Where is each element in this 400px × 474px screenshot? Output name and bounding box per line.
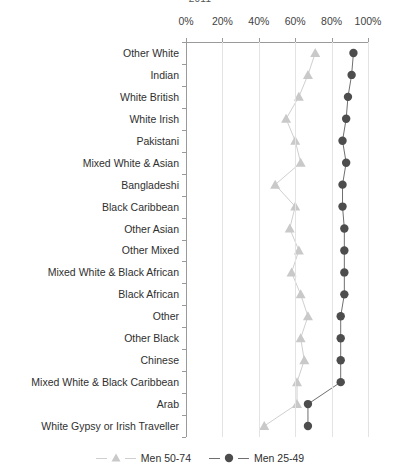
y-tick-mark [182, 86, 186, 87]
data-point [337, 378, 345, 386]
data-point [337, 356, 345, 364]
legend-line [209, 458, 220, 459]
gridline-60 [295, 42, 296, 437]
category-label: Indian [150, 69, 179, 81]
data-point [296, 333, 306, 342]
data-point [304, 400, 312, 408]
category-label: Black African [118, 288, 179, 300]
y-tick-mark [182, 327, 186, 328]
legend-label: Men 25-49 [252, 452, 304, 464]
legend-label: Men 50-74 [139, 452, 191, 464]
data-point [285, 224, 295, 233]
y-tick-mark [182, 283, 186, 284]
data-point [344, 93, 352, 101]
gridline-100 [368, 42, 369, 437]
x-tick-mark [295, 38, 296, 42]
y-tick-mark [182, 371, 186, 372]
x-tick-label-0: 0% [178, 15, 193, 27]
data-point [340, 224, 348, 232]
gridline-20 [222, 42, 223, 437]
data-point [296, 289, 306, 298]
x-tick-label-100: 100% [355, 15, 382, 27]
data-point [281, 114, 291, 123]
legend-triangle-icon [110, 452, 122, 464]
category-label: Mixed White & Black African [48, 266, 179, 278]
data-point [310, 48, 320, 57]
legend-item-men-25-49[interactable]: Men 25-49 [209, 452, 304, 464]
y-tick-mark [182, 64, 186, 65]
category-label: Other Asian [124, 223, 179, 235]
data-point [338, 137, 346, 145]
y-tick-mark [182, 437, 186, 438]
y-tick-mark [182, 108, 186, 109]
y-tick-mark [182, 349, 186, 350]
data-point [338, 202, 346, 210]
y-tick-mark [182, 42, 186, 43]
category-label: White Gypsy or Irish Traveller [41, 420, 179, 432]
category-label: Other White [123, 47, 179, 59]
x-tick-label-80: 80% [321, 15, 342, 27]
data-point [296, 158, 306, 167]
y-tick-mark [182, 415, 186, 416]
legend-line [238, 458, 249, 459]
category-label: Black Caribbean [102, 201, 179, 213]
data-point [292, 377, 302, 386]
y-tick-mark [182, 305, 186, 306]
x-tick-mark [332, 38, 333, 42]
y-tick-mark [182, 130, 186, 131]
x-tick-mark [368, 38, 369, 42]
category-label: Bangladeshi [121, 179, 179, 191]
y-tick-mark [182, 393, 186, 394]
data-point [292, 399, 302, 408]
category-label: White Irish [129, 113, 179, 125]
category-label: Mixed White & Asian [83, 157, 179, 169]
x-axis-tick-labels: 0%20%40%60%80%100% [0, 15, 400, 29]
data-point [342, 115, 350, 123]
y-tick-mark [182, 174, 186, 175]
y-tick-mark [182, 152, 186, 153]
y-tick-mark [182, 196, 186, 197]
data-point [340, 246, 348, 254]
x-tick-label-60: 60% [285, 15, 306, 27]
data-point [340, 268, 348, 276]
series-line-men-50-74 [264, 53, 315, 426]
data-series-layer [186, 42, 368, 437]
data-point [304, 422, 312, 430]
data-point [259, 421, 269, 430]
data-point [303, 311, 313, 320]
data-point [337, 334, 345, 342]
y-tick-mark [182, 261, 186, 262]
data-point [337, 312, 345, 320]
gridline-80 [332, 42, 333, 437]
category-label: Other [153, 310, 179, 322]
category-label: Chinese [140, 354, 179, 366]
category-label: Other Black [124, 332, 179, 344]
data-point [338, 180, 346, 188]
legend-circle-icon [223, 452, 235, 464]
x-tick-mark [259, 38, 260, 42]
data-point [340, 290, 348, 298]
legend-line [96, 458, 107, 459]
data-point [342, 158, 350, 166]
chart-title: 2011 [0, 0, 400, 4]
plot-area [186, 42, 368, 437]
category-label: Pakistani [136, 135, 179, 147]
y-tick-mark [182, 218, 186, 219]
category-label: Other Mixed [122, 244, 179, 256]
data-point [349, 49, 357, 57]
data-point [347, 71, 355, 79]
gridline-40 [259, 42, 260, 437]
category-label: Mixed White & Black Caribbean [31, 376, 179, 388]
category-label: Arab [157, 398, 179, 410]
x-tick-mark [186, 38, 187, 42]
y-tick-mark [182, 240, 186, 241]
x-tick-label-40: 40% [248, 15, 269, 27]
legend-item-men-50-74[interactable]: Men 50-74 [96, 452, 191, 464]
data-point [299, 355, 309, 364]
x-tick-label-20: 20% [212, 15, 233, 27]
category-label: White British [120, 91, 179, 103]
data-point [303, 70, 313, 79]
legend-line [125, 458, 136, 459]
x-tick-mark [222, 38, 223, 42]
chart-legend: Men 50-74Men 25-49 [0, 452, 400, 464]
